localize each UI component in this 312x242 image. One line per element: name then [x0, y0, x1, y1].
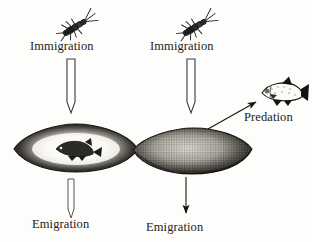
thin-line-down-arrow [178, 176, 194, 220]
hollow-down-arrow [62, 58, 80, 116]
stone-with-fish-icon [12, 122, 140, 174]
ecology-flow-diagram: Immigration [0, 0, 312, 242]
right-emigration-label: Emigration [146, 221, 203, 234]
mayfly-nymph-icon [52, 6, 102, 42]
predation-label: Predation [244, 111, 293, 124]
stippled-stone-icon [132, 126, 254, 176]
right-immigration-label: Immigration [150, 40, 214, 53]
left-emigration-label: Emigration [32, 218, 89, 231]
left-immigration-label: Immigration [30, 40, 94, 53]
hollow-down-arrow [62, 178, 80, 220]
hollow-down-arrow [182, 58, 200, 116]
mayfly-nymph-icon [172, 6, 222, 42]
